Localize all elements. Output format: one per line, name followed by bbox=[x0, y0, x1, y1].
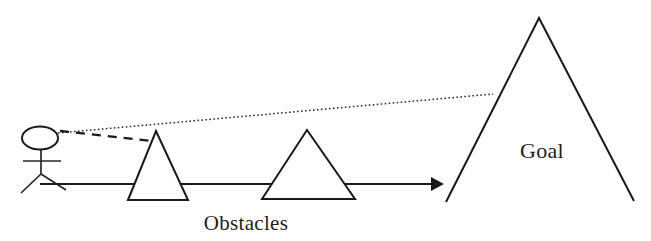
figure-head bbox=[22, 127, 58, 150]
line-of-sight-to-goal bbox=[58, 94, 493, 133]
obstacles-label: Obstacles bbox=[204, 211, 288, 235]
path-arrow-group bbox=[40, 177, 444, 191]
line-of-sight-to-obstacle bbox=[60, 131, 152, 141]
diagram-canvas: Obstacles Goal bbox=[0, 0, 651, 241]
obstacle-triangle-1 bbox=[128, 131, 188, 200]
figure-leg-left bbox=[21, 174, 41, 193]
sight-lines bbox=[58, 94, 493, 141]
arrow-head-icon bbox=[431, 177, 444, 191]
goal-obstacles-diagram: Obstacles Goal bbox=[0, 0, 651, 241]
figure-leg-right bbox=[41, 174, 66, 190]
goal-mountain bbox=[446, 18, 634, 202]
obstacle-triangle-2 bbox=[262, 130, 355, 199]
goal-label: Goal bbox=[520, 138, 564, 163]
